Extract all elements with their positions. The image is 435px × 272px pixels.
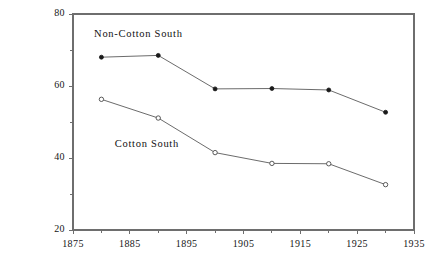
data-point [156, 53, 160, 57]
series-line-0 [101, 55, 385, 112]
x-tick-label: 1905 [219, 238, 269, 249]
x-tick-label: 1915 [275, 238, 325, 249]
x-tick-label: 1885 [105, 238, 155, 249]
y-tick-label: 40 [31, 151, 65, 162]
data-point [327, 88, 331, 92]
data-point [156, 116, 160, 120]
x-tick-label: 1935 [389, 238, 435, 249]
data-point [213, 150, 217, 154]
y-tick-label: 60 [31, 79, 65, 90]
data-point [383, 182, 387, 186]
y-tick-label: 20 [31, 223, 65, 234]
data-point [99, 55, 103, 59]
series-label-1: Cotton South [115, 138, 179, 149]
data-point [327, 162, 331, 166]
data-point [270, 87, 274, 91]
x-tick-label: 1875 [48, 238, 98, 249]
x-tick-label: 1895 [162, 238, 212, 249]
data-point [270, 161, 274, 165]
axes [73, 14, 414, 230]
data-point [213, 87, 217, 91]
axis-frame [73, 14, 414, 230]
y-tick-label: 80 [31, 7, 65, 18]
tick-marks [69, 14, 414, 234]
plot-area [0, 0, 435, 272]
data-point [384, 110, 388, 114]
data-point [99, 97, 103, 101]
x-tick-label: 1925 [332, 238, 382, 249]
series-label-0: Non-Cotton South [94, 28, 183, 39]
chart-container: Percent of All Farms Owner-Operated 2040… [0, 0, 435, 272]
data-series [99, 53, 388, 186]
